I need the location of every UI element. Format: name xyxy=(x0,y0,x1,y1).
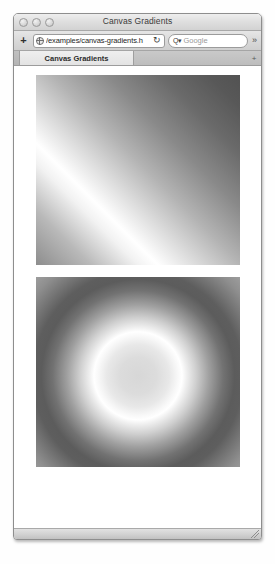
search-placeholder: Google xyxy=(183,36,207,45)
tab-bar: Canvas Gradients + xyxy=(14,51,261,66)
window-title: Canvas Gradients xyxy=(14,16,261,26)
browser-window: Canvas Gradients + /examples/canvas-grad… xyxy=(13,13,262,540)
new-tab-button[interactable]: + xyxy=(247,51,261,65)
search-icon[interactable]: Q▾ xyxy=(173,37,182,45)
window-titlebar: Canvas Gradients xyxy=(14,14,261,31)
url-field[interactable]: /examples/canvas-gradients.h ↻ xyxy=(33,34,165,48)
search-input[interactable]: Q▾ Google xyxy=(168,34,248,48)
url-text: /examples/canvas-gradients.h xyxy=(46,36,152,45)
resize-grip-icon[interactable] xyxy=(251,530,259,538)
reload-icon[interactable]: ↻ xyxy=(152,36,162,45)
globe-icon xyxy=(36,37,44,45)
radial-gradient-canvas-wrapper xyxy=(36,277,240,467)
page-content xyxy=(14,66,261,521)
linear-gradient-canvas xyxy=(36,75,240,265)
page-background: Canvas Gradients + /examples/canvas-grad… xyxy=(0,0,275,564)
radial-gradient-canvas xyxy=(36,277,240,467)
add-bookmark-button[interactable]: + xyxy=(17,34,30,48)
toolbar-overflow-icon[interactable]: » xyxy=(251,36,258,45)
browser-toolbar: + /examples/canvas-gradients.h ↻ Q▾ Goog… xyxy=(14,31,261,51)
linear-gradient-canvas-wrapper xyxy=(36,75,240,265)
tab-empty-slot[interactable] xyxy=(134,51,247,65)
tab-canvas-gradients[interactable]: Canvas Gradients xyxy=(20,51,134,65)
window-statusbar xyxy=(14,528,261,539)
